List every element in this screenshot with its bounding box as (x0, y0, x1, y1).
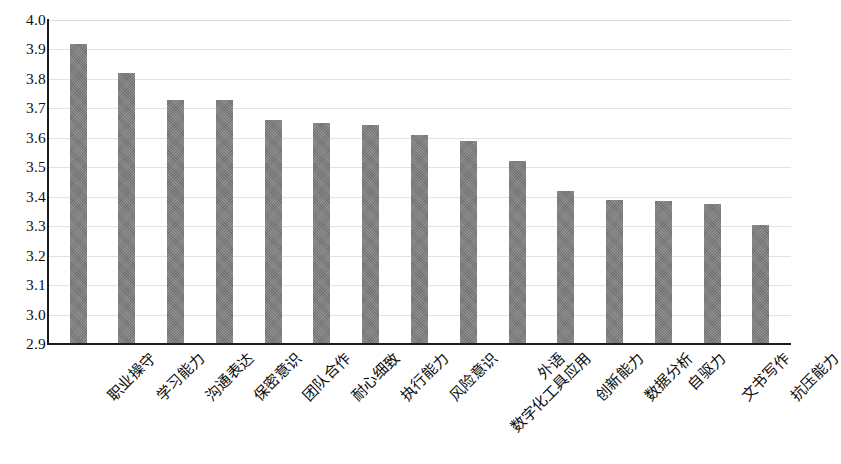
x-axis-tick-label-text: 抗压能力 (787, 350, 841, 404)
x-axis-tick-label-text: 学习能力 (154, 350, 208, 404)
y-axis-tick-label: 3.5 (2, 160, 46, 176)
x-axis-tick-label-text: 沟通表达 (202, 350, 256, 404)
y-axis-tick-label: 3.2 (2, 248, 46, 264)
x-axis-tick-label-text: 耐心细致 (349, 350, 403, 404)
bar[interactable] (411, 135, 428, 344)
bar[interactable] (752, 225, 769, 344)
x-axis-tick-label-text: 保密意识 (251, 350, 305, 404)
gridline (48, 79, 791, 80)
bar[interactable] (557, 191, 574, 344)
x-axis-tick-label: 创新能力 (592, 350, 646, 404)
x-axis-tick-labels: 职业操守学习能力沟通表达保密意识团队合作耐心细致执行能力风险意识数字化工具应用外… (48, 346, 791, 464)
x-axis-tick-label: 耐心细致 (349, 350, 403, 404)
y-axis-tick-label: 4.0 (2, 12, 46, 28)
x-axis-tick-label: 执行能力 (397, 350, 451, 404)
y-axis-tick-label: 3.6 (2, 130, 46, 146)
x-axis-tick-label: 数据分析 (641, 350, 695, 404)
bar[interactable] (704, 204, 721, 344)
gridline (48, 108, 791, 109)
y-axis-tick-label: 3.3 (2, 218, 46, 234)
x-axis-tick-label: 沟通表达 (202, 350, 256, 404)
bar[interactable] (167, 100, 184, 344)
bar[interactable] (509, 161, 526, 344)
y-axis-tick-label: 3.8 (2, 71, 46, 87)
x-axis-tick-label-text: 职业操守 (105, 350, 159, 404)
bar[interactable] (265, 120, 282, 344)
bar[interactable] (655, 201, 672, 344)
bar[interactable] (118, 73, 135, 344)
x-axis-tick-label: 风险意识 (446, 350, 500, 404)
x-axis-line (47, 343, 791, 345)
bar[interactable] (606, 200, 623, 344)
x-axis-tick-label: 学习能力 (154, 350, 208, 404)
x-axis-tick-label: 自驱力 (685, 350, 728, 393)
y-axis-tick-label: 3.0 (2, 307, 46, 323)
bar[interactable] (362, 125, 379, 344)
x-axis-tick-label-text: 创新能力 (592, 350, 646, 404)
bar[interactable] (313, 123, 330, 344)
bar[interactable] (70, 44, 87, 344)
x-axis-tick-label: 团队合作 (300, 350, 354, 404)
x-axis-tick-label-text: 文书写作 (739, 350, 793, 404)
y-axis-tick-labels: 2.93.03.13.23.33.43.53.63.73.83.94.0 (0, 0, 46, 464)
x-axis-tick-label-text: 自驱力 (685, 350, 728, 393)
x-axis-tick-label-text: 风险意识 (446, 350, 500, 404)
x-axis-tick-label-text: 数据分析 (641, 350, 695, 404)
gridline (48, 49, 791, 50)
bar[interactable] (460, 141, 477, 344)
x-axis-tick-label-text: 执行能力 (397, 350, 451, 404)
x-axis-tick-label: 保密意识 (251, 350, 305, 404)
gridline (48, 20, 791, 21)
y-axis-tick-label: 2.9 (2, 336, 46, 352)
plot-area (48, 20, 791, 344)
y-axis-line (47, 19, 49, 345)
y-axis-tick-label: 3.7 (2, 101, 46, 117)
y-axis-tick-label: 3.9 (2, 42, 46, 58)
y-axis-tick-label: 3.4 (2, 189, 46, 205)
x-axis-tick-label: 抗压能力 (787, 350, 841, 404)
bar[interactable] (216, 100, 233, 344)
x-axis-tick-label: 职业操守 (105, 350, 159, 404)
x-axis-tick-label-text: 团队合作 (300, 350, 354, 404)
y-axis-tick-label: 3.1 (2, 277, 46, 293)
x-axis-tick-label: 文书写作 (739, 350, 793, 404)
